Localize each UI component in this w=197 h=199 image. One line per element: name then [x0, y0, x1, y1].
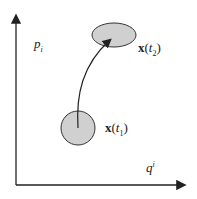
- x-t1-label: x(t1): [105, 120, 128, 138]
- x-vector-symbol: x: [105, 120, 112, 135]
- x-vector-symbol: x: [138, 40, 145, 55]
- x-t2-label: x(t2): [138, 40, 161, 58]
- p-axis-label: pi: [34, 36, 43, 54]
- diagram-canvas: [0, 0, 197, 199]
- region-t2-ellipse: [92, 23, 136, 47]
- q-axis-label: qi: [146, 160, 155, 176]
- t-subscript: 2: [152, 49, 156, 58]
- phase-space-diagram: pi x(t2) x(t1) qi: [0, 0, 197, 199]
- t-subscript: 1: [119, 129, 123, 138]
- p-subscript: i: [41, 45, 43, 54]
- q-superscript: i: [153, 160, 155, 169]
